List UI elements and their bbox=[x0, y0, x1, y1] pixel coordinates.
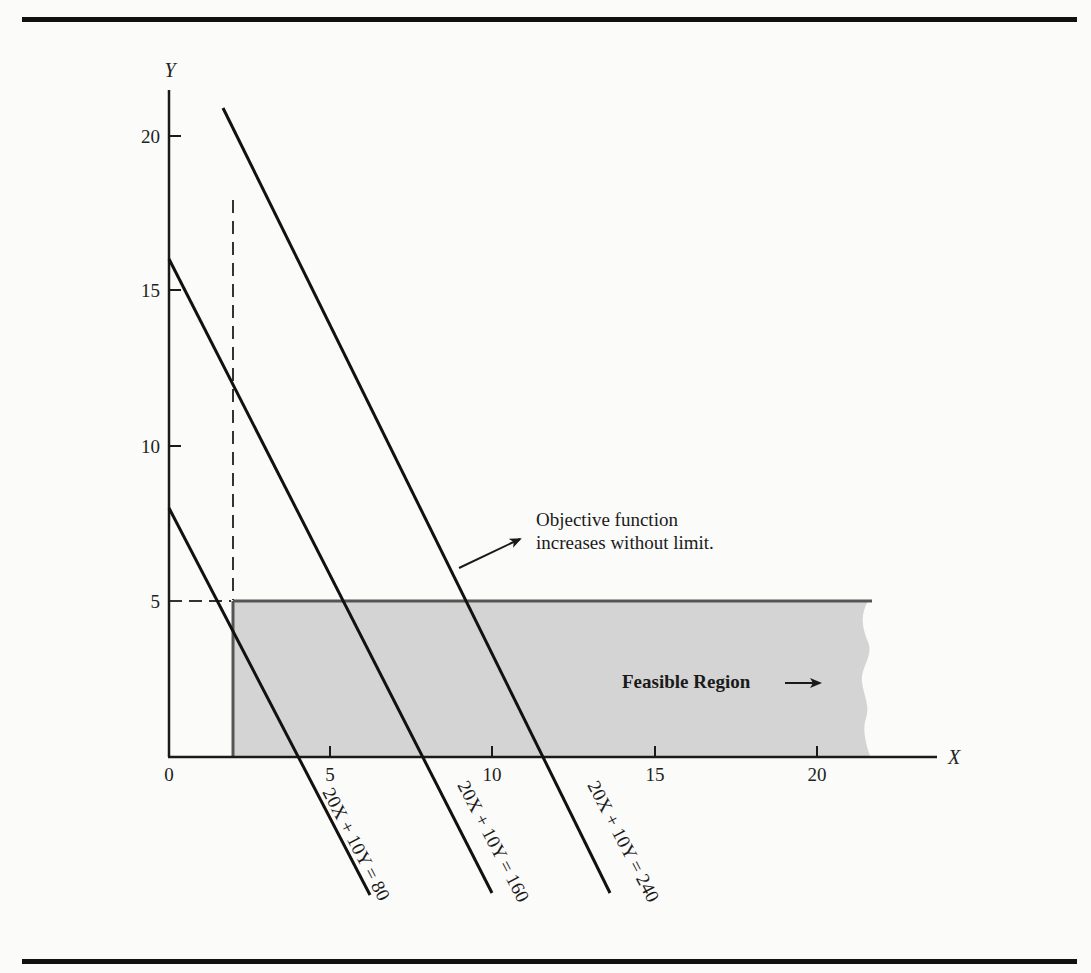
y-tick-label-15: 15 bbox=[141, 280, 160, 301]
x-tick-label-0: 0 bbox=[164, 764, 174, 785]
feasible-region bbox=[233, 601, 870, 756]
y-tick-label-20: 20 bbox=[141, 126, 160, 147]
lp-graph: 20 15 10 5 0 5 10 15 20 Y X 20X + 10Y = … bbox=[0, 0, 1091, 973]
y-tick-label-10: 10 bbox=[141, 436, 160, 457]
x-tick-label-20: 20 bbox=[808, 764, 827, 785]
y-axis-label: Y bbox=[164, 59, 177, 81]
feasible-region-label: Feasible Region bbox=[622, 671, 751, 692]
annotation-arrow bbox=[459, 539, 520, 568]
x-tick-label-5: 5 bbox=[325, 764, 335, 785]
line-label-80: 20X + 10Y = 80 bbox=[318, 784, 394, 904]
line-label-240: 20X + 10Y = 240 bbox=[583, 777, 663, 905]
x-tick-label-10: 10 bbox=[483, 764, 502, 785]
y-tick-label-5: 5 bbox=[151, 591, 161, 612]
annotation-line-2: increases without limit. bbox=[536, 532, 714, 553]
objective-line-240 bbox=[223, 108, 610, 893]
annotation-line-1: Objective function bbox=[536, 509, 678, 530]
y-ticks bbox=[169, 136, 181, 446]
x-tick-label-15: 15 bbox=[646, 764, 665, 785]
x-axis-label: X bbox=[947, 746, 961, 768]
